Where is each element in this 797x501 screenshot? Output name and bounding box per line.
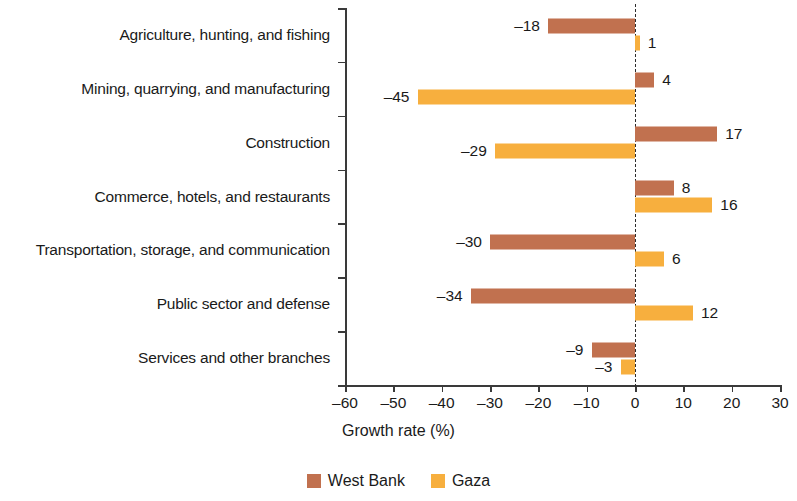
x-axis-tick — [442, 385, 444, 392]
x-axis-tick-label: –60 — [332, 394, 358, 412]
bar-value-label: –29 — [461, 142, 487, 160]
x-axis-tick-label: –50 — [380, 394, 406, 412]
x-axis-tick-label: –10 — [574, 394, 600, 412]
category-label: Construction — [245, 134, 330, 152]
y-axis-tick — [338, 223, 345, 225]
bar-value-label: 4 — [662, 71, 671, 89]
bar-gaza — [621, 359, 636, 374]
category-axis: Agriculture, hunting, and fishingMining,… — [0, 0, 338, 385]
category-label: Public sector and defense — [157, 295, 330, 313]
bar-gaza — [635, 36, 640, 51]
bar-west-bank — [490, 234, 635, 249]
y-axis-tick — [338, 277, 345, 279]
legend-swatch-gaza — [431, 474, 445, 488]
bar-gaza — [418, 90, 636, 105]
bar-value-label: –34 — [437, 287, 463, 305]
bar-value-label: –9 — [566, 341, 583, 359]
x-axis-tick-label: –20 — [525, 394, 551, 412]
bar-gaza — [635, 305, 693, 320]
legend-label-gaza: Gaza — [452, 472, 490, 490]
category-label: Agriculture, hunting, and fishing — [119, 26, 330, 44]
x-axis-tick-label: 30 — [771, 394, 788, 412]
x-axis-tick — [732, 385, 734, 392]
zero-reference-line — [635, 4, 636, 387]
bar-west-bank — [635, 181, 674, 196]
bar-gaza — [635, 198, 712, 213]
y-axis-spine — [345, 8, 347, 385]
x-axis-tick — [780, 385, 782, 392]
bar-value-label: –3 — [595, 358, 612, 376]
x-axis-tick-label: 20 — [723, 394, 740, 412]
category-label: Mining, quarrying, and manufacturing — [81, 80, 330, 98]
x-axis-spine — [345, 385, 780, 387]
legend-label-west-bank: West Bank — [328, 472, 405, 490]
x-axis-tick-label: 10 — [675, 394, 692, 412]
x-axis-tick-label: –40 — [429, 394, 455, 412]
bar-value-label: 1 — [648, 34, 657, 52]
bar-value-label: 12 — [701, 304, 718, 322]
bar-west-bank — [635, 127, 717, 142]
bar-value-label: 6 — [672, 250, 681, 268]
bar-west-bank — [592, 342, 636, 357]
x-axis-tick — [538, 385, 540, 392]
bar-gaza — [495, 144, 635, 159]
chart-legend: West Bank Gaza — [0, 472, 797, 490]
bar-gaza — [635, 251, 664, 266]
bar-chart-figure: Agriculture, hunting, and fishingMining,… — [0, 0, 797, 501]
legend-item-gaza: Gaza — [431, 472, 490, 490]
bar-value-label: 17 — [725, 125, 742, 143]
y-axis-tick — [338, 170, 345, 172]
x-axis-title: Growth rate (%) — [0, 422, 797, 440]
y-axis-tick — [338, 62, 345, 64]
x-axis-tick — [490, 385, 492, 392]
legend-item-west-bank: West Bank — [307, 472, 405, 490]
bar-value-label: –45 — [384, 88, 410, 106]
bar-west-bank — [471, 288, 635, 303]
y-axis-tick — [338, 385, 345, 387]
bar-value-label: –18 — [514, 17, 540, 35]
bar-west-bank — [635, 73, 654, 88]
bar-west-bank — [548, 19, 635, 34]
category-label: Services and other branches — [138, 349, 330, 367]
x-axis-tick-label: –30 — [477, 394, 503, 412]
x-axis-tick — [587, 385, 589, 392]
x-axis-tick — [345, 385, 347, 392]
bar-value-label: 16 — [720, 196, 737, 214]
y-axis-tick — [338, 331, 345, 333]
category-label: Commerce, hotels, and restaurants — [95, 188, 330, 206]
legend-swatch-west-bank — [307, 474, 321, 488]
bar-value-label: 8 — [682, 179, 691, 197]
category-label: Transportation, storage, and communicati… — [36, 241, 330, 259]
y-axis-tick — [338, 8, 345, 10]
x-axis-tick — [393, 385, 395, 392]
y-axis-tick — [338, 116, 345, 118]
bar-value-label: –30 — [456, 233, 482, 251]
x-axis-tick-label: 0 — [631, 394, 640, 412]
x-axis-tick — [683, 385, 685, 392]
